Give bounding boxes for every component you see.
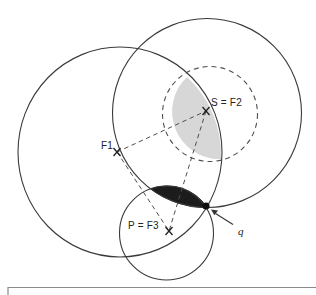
point-q-dot xyxy=(202,202,209,209)
label-p-f3: P = F3 xyxy=(128,220,159,231)
diagram-canvas: F1 S = F2 P = F3 q xyxy=(0,0,316,295)
dark-intersection-region xyxy=(151,186,207,208)
bottom-frame xyxy=(8,288,316,295)
label-f1: F1 xyxy=(101,140,113,151)
geometry-diagram-svg: F1 S = F2 P = F3 q xyxy=(0,0,316,295)
label-s-f2: S = F2 xyxy=(211,97,242,108)
x-mark-p xyxy=(166,227,173,235)
q-arrow xyxy=(211,210,233,225)
x-mark-f1 xyxy=(114,148,121,156)
gray-intersection-region xyxy=(172,77,221,159)
label-q: q xyxy=(238,225,244,237)
